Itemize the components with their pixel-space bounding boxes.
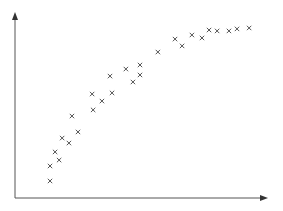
data-point-marker — [110, 91, 114, 95]
data-point-marker — [70, 114, 74, 118]
y-axis-arrow-icon — [12, 12, 18, 20]
data-point-marker — [53, 150, 57, 154]
data-point-marker — [227, 29, 231, 33]
data-point-marker — [48, 179, 52, 183]
data-point-marker — [131, 80, 135, 84]
data-point-marker — [215, 29, 219, 33]
data-point-marker — [124, 67, 128, 71]
data-point-marker — [76, 130, 80, 134]
data-point-marker — [100, 99, 104, 103]
data-point-marker — [90, 92, 94, 96]
x-axis — [15, 195, 268, 201]
y-axis — [12, 12, 18, 198]
data-point-marker — [60, 136, 64, 140]
data-point-marker — [247, 26, 251, 30]
data-point-marker — [190, 33, 194, 37]
data-point-marker — [108, 74, 112, 78]
data-point-marker — [173, 37, 177, 41]
data-point-marker — [67, 141, 71, 145]
data-point-marker — [200, 36, 204, 40]
data-point-marker — [57, 158, 61, 162]
data-point-marker — [91, 108, 95, 112]
scatter-chart — [0, 0, 283, 211]
data-point-marker — [207, 28, 211, 32]
data-point-marker — [138, 63, 142, 67]
data-point-marker — [156, 50, 160, 54]
data-points — [48, 26, 251, 183]
data-point-marker — [138, 73, 142, 77]
x-axis-arrow-icon — [260, 195, 268, 201]
data-point-marker — [235, 27, 239, 31]
data-point-marker — [180, 44, 184, 48]
data-point-marker — [48, 164, 52, 168]
